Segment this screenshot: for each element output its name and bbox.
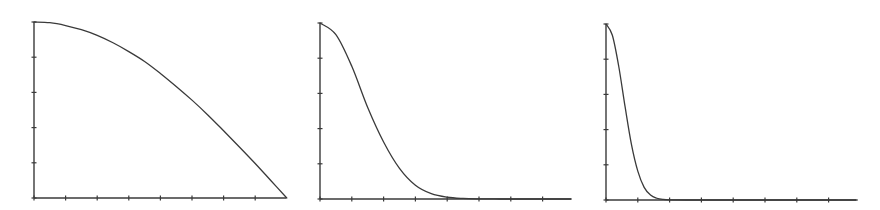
chart-panel-1 [32, 22, 287, 201]
chart-panel-3 [604, 24, 858, 203]
chart-panel-2 [318, 23, 572, 202]
data-curve [320, 23, 571, 199]
chart-figure [0, 0, 880, 210]
data-curve [606, 24, 857, 200]
data-curve [34, 22, 287, 198]
chart-canvas [0, 0, 880, 210]
